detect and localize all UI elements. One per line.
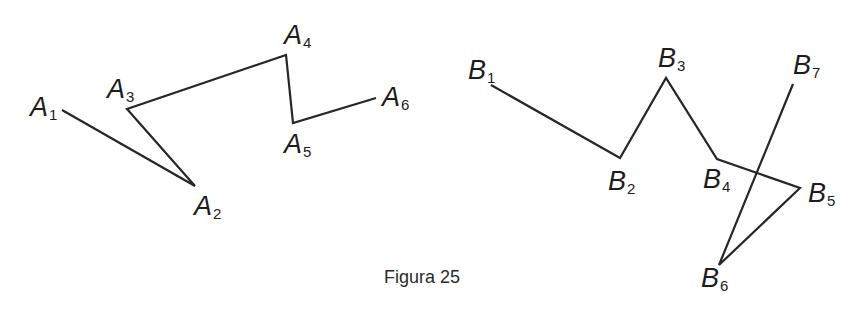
- label-a3: A3: [107, 76, 134, 103]
- label-a6: A6: [382, 84, 409, 111]
- label-b7: B7: [793, 52, 820, 79]
- label-a2: A2: [194, 193, 221, 220]
- label-a4: A4: [284, 22, 311, 49]
- label-b3: B3: [658, 45, 685, 72]
- polyline-b: [491, 78, 800, 265]
- figure-25: A1 A2 A3 A4 A5 A6 B1 B2 B3 B4 B5 B6 B7 F…: [0, 0, 863, 318]
- label-b5: B5: [808, 180, 835, 207]
- label-a1: A1: [30, 94, 57, 121]
- label-b4: B4: [703, 166, 730, 193]
- label-a5: A5: [284, 131, 311, 158]
- label-b1: B1: [468, 57, 495, 84]
- label-b2: B2: [608, 168, 635, 195]
- label-b6: B6: [701, 265, 728, 292]
- figure-caption: Figura 25: [384, 267, 460, 288]
